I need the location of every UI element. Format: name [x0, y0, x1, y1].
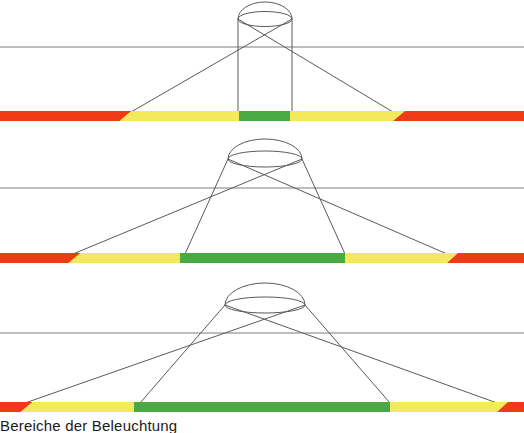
lighting-distribution-diagram — [0, 0, 524, 433]
zone-segment-green — [239, 111, 290, 121]
zone-segment-yellow-right — [345, 253, 458, 263]
zone-segment-yellow-left — [68, 253, 180, 263]
figure-caption: Bereiche der Beleuchtung — [0, 418, 524, 433]
zone-bar — [0, 111, 524, 121]
zone-bar — [0, 402, 524, 412]
zone-segment-yellow-right — [390, 402, 508, 412]
zone-bar — [0, 253, 524, 263]
zone-segment-green — [180, 253, 345, 263]
zone-segment-red-right — [393, 111, 524, 121]
zone-segment-green — [134, 402, 390, 412]
figure-caption-text: Bereiche der Beleuchtung — [0, 418, 524, 433]
zone-segment-yellow-right — [290, 111, 405, 121]
zone-segment-yellow-left — [119, 111, 239, 121]
zone-segment-red-right — [447, 253, 524, 263]
zone-segment-red-left — [0, 111, 131, 121]
zone-segment-yellow-left — [20, 402, 134, 412]
figure-background — [0, 0, 524, 433]
